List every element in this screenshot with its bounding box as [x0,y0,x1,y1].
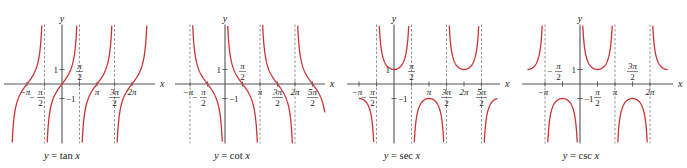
svg-text:5π: 5π [477,87,487,97]
x-tick-label-5: 2π [645,87,655,97]
caption-sec: y = sec x [384,150,421,161]
y-tick-label-1: 1 [572,65,577,75]
y-axis-label: y [391,13,397,24]
svg-text:2: 2 [409,72,414,82]
caption-tan-eq: = tan [51,150,72,161]
caption-cot-y: y [214,150,219,161]
svg-text:2: 2 [479,98,484,108]
x-axis-label: x [677,78,683,89]
svg-text:π: π [38,87,43,97]
caption-csc-x: x [595,150,600,161]
x-axis-label: x [329,78,335,89]
tan-graph: xy1−1−ππ2−π2π3π22π [4,13,165,144]
svg-text:π: π [613,87,618,97]
x-tick-label-5: 2π [290,87,300,97]
x-tick-label-2: π2 [594,87,601,108]
x-tick-label-3: π [95,87,100,97]
y-tick-label-neg1: −1 [229,94,239,104]
x-tick-label-2: π2 [239,61,246,82]
x-tick-label-0: −π [538,87,549,97]
svg-text:π: π [370,87,375,97]
svg-text:2: 2 [77,72,82,82]
svg-text:π: π [201,87,206,97]
caption-tan-x: x [75,150,80,161]
y-tick-label-1: 1 [54,65,59,75]
svg-text:2: 2 [275,98,280,108]
svg-text:π: π [595,87,600,97]
x-tick-label-3: π [427,87,432,97]
caption-sec-eq: = sec [391,150,413,161]
x-tick-label-3: π [613,87,618,97]
y-axis-label: y [59,13,65,24]
x-tick-label-6: 5π2 [476,87,487,108]
svg-text:−π: −π [538,87,549,97]
x-tick-label-2: π2 [408,61,415,82]
svg-text:π: π [77,61,82,71]
x-tick-label-4: 3π2 [441,87,452,108]
svg-text:π: π [409,61,414,71]
caption-csc-eq: = csc [570,150,592,161]
svg-text:2π: 2π [645,87,655,97]
caption-tan: y = tan x [44,150,80,161]
x-tick-label-3: π [258,87,263,97]
caption-cot-x: x [245,150,250,161]
svg-text:2: 2 [370,98,375,108]
svg-text:2π: 2π [290,87,300,97]
x-tick-label-4: 3π2 [627,61,638,82]
svg-text:π: π [240,61,245,71]
caption-cot: y = cot x [214,150,250,161]
svg-text:2: 2 [444,98,449,108]
cot-graph: xy1−1−ππ2−π2π3π22π5π2 [175,13,335,144]
svg-text:3π: 3π [441,87,452,97]
y-tick-label-neg1: −1 [398,94,408,104]
svg-text:−: − [192,92,197,102]
y-tick-label-1: 1 [217,65,222,75]
svg-text:3π: 3π [627,61,638,71]
caption-cot-eq: = cot [221,150,242,161]
x-tick-label-1: π2− [29,87,44,108]
svg-text:π: π [258,87,263,97]
y-axis-label: y [222,13,228,24]
x-axis-label: x [504,78,510,89]
x-tick-label-4: 3π2 [109,87,120,108]
y-axis-label: y [577,13,583,24]
x-tick-label-1: π2− [547,61,562,82]
x-tick-label-2: π2 [76,61,83,82]
x-axis-label: x [159,78,165,89]
svg-text:π: π [95,87,100,97]
caption-sec-y: y [384,150,389,161]
svg-text:π: π [556,61,561,71]
sec-graph: xy1−1−ππ2−π2π3π22π5π2 [347,13,510,144]
caption-sec-x: x [416,150,421,161]
trig-graphs-figure: xy1−1−ππ2−π2π3π22π xy1−1−ππ2−π2π3π22π5π2… [0,0,687,168]
svg-text:2: 2 [201,98,206,108]
y-tick-label-neg1: −1 [66,94,76,104]
caption-tan-y: y [44,150,49,161]
y-tick-label-neg1: −1 [584,94,594,104]
svg-text:2: 2 [556,72,561,82]
x-tick-label-5: 2π [459,87,469,97]
svg-text:−: − [547,66,552,76]
svg-text:2: 2 [38,98,43,108]
svg-text:2: 2 [630,72,635,82]
svg-text:2π: 2π [459,87,469,97]
x-tick-label-1: π2− [192,87,207,108]
svg-text:2: 2 [310,98,315,108]
svg-text:2: 2 [112,98,117,108]
svg-text:−: − [29,92,34,102]
svg-text:3π: 3π [109,87,120,97]
svg-text:π: π [427,87,432,97]
caption-csc-y: y [563,150,568,161]
csc-graph: xy1−1−ππ2−π2π3π22π [522,13,683,144]
caption-csc: y = csc x [563,150,600,161]
svg-text:2: 2 [240,72,245,82]
svg-text:2: 2 [595,98,600,108]
